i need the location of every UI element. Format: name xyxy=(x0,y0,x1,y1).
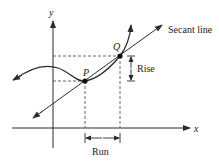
point-p-label: P xyxy=(82,67,89,78)
function-curve xyxy=(14,25,131,81)
point-p: P xyxy=(82,67,89,84)
point-p-dot xyxy=(82,78,87,83)
rise-label: Rise xyxy=(137,63,155,74)
y-axis-label: y xyxy=(48,7,54,18)
secant-line-label: Secant line xyxy=(168,24,213,35)
run-label: Run xyxy=(92,146,109,157)
point-q-label: Q xyxy=(113,41,121,52)
curve-left-arrow xyxy=(13,75,22,80)
secant-line-left xyxy=(33,112,42,119)
point-q-dot xyxy=(117,53,122,58)
run-indicator xyxy=(85,133,120,143)
x-axis-label: x xyxy=(193,123,199,134)
secant-line xyxy=(130,25,162,48)
rise-indicator xyxy=(127,56,135,81)
secant-line-diagram: x y Secant line P Q Rise Run xyxy=(0,0,219,162)
